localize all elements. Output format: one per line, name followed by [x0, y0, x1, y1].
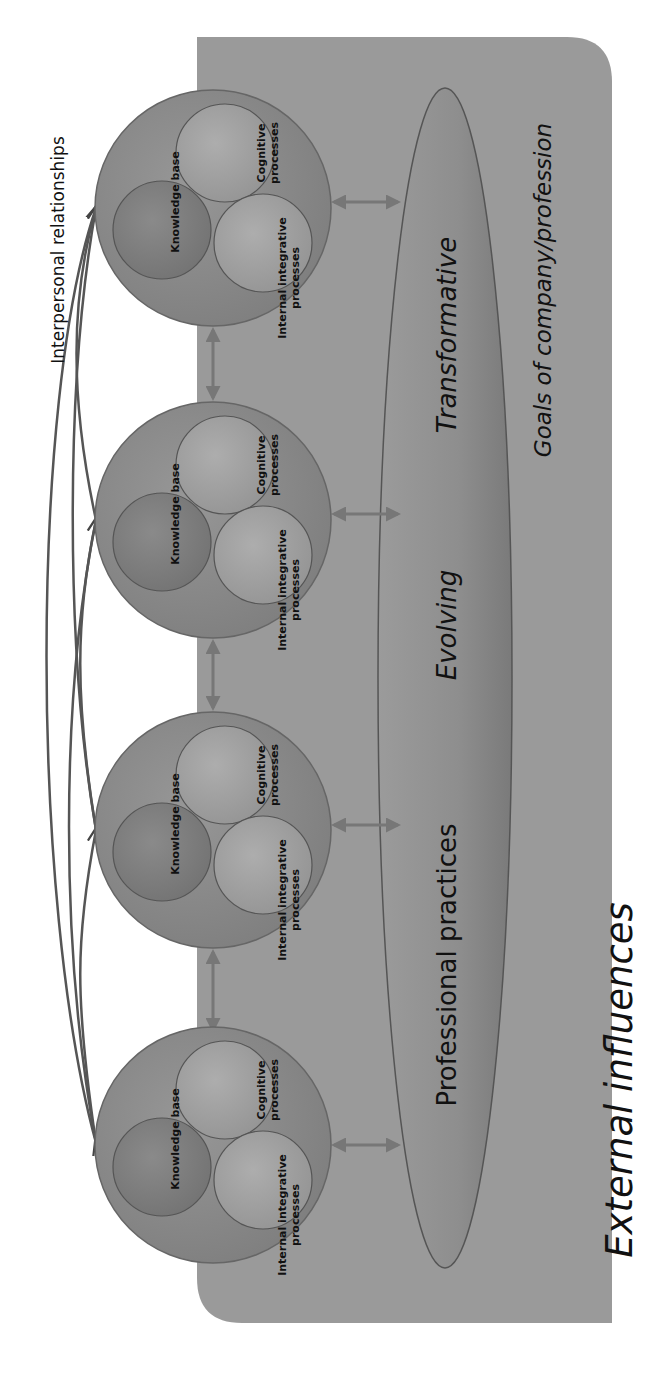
knowledge-label: Knowledge base: [169, 151, 182, 253]
cognitive-label-1: Cognitive: [255, 1061, 268, 1120]
cognitive-label-1: Cognitive: [255, 124, 268, 183]
integrative-label-2: processes: [289, 869, 302, 931]
individual-3: Knowledge base Cognitive processes Inter…: [95, 712, 331, 961]
integrative-label-1: Internal integrative: [276, 1154, 289, 1276]
integrative-label-2: processes: [289, 247, 302, 309]
individual-1: Knowledge base Cognitive processes Inter…: [95, 90, 331, 339]
cognitive-label-2: processes: [268, 434, 281, 496]
knowledge-label: Knowledge base: [169, 463, 182, 565]
cognitive-label-1: Cognitive: [255, 436, 268, 495]
diagram-canvas: Knowledge base Cognitive processes Inter…: [0, 0, 663, 1381]
cognitive-label-2: processes: [268, 1059, 281, 1121]
integrative-label-2: processes: [289, 1184, 302, 1246]
individual-4: Knowledge base Cognitive processes Inter…: [95, 1027, 331, 1276]
knowledge-circle: [113, 1118, 211, 1216]
integrative-label-2: processes: [289, 559, 302, 621]
cognitive-label-2: processes: [268, 744, 281, 806]
cognitive-label-1: Cognitive: [255, 746, 268, 805]
interpersonal-label: Interpersonal relationships: [48, 136, 68, 364]
integrative-label-1: Internal integrative: [276, 217, 289, 339]
cognitive-label-2: processes: [268, 122, 281, 184]
professional-practices-label: Professional practices: [432, 823, 462, 1106]
knowledge-circle: [113, 493, 211, 591]
evolving-label: Evolving: [432, 570, 462, 681]
individual-2: Knowledge base Cognitive processes Inter…: [95, 402, 331, 651]
knowledge-circle: [113, 181, 211, 279]
integrative-label-1: Internal integrative: [276, 529, 289, 651]
goals-label: Goals of company/profession: [530, 123, 556, 457]
external-influences-label: External influences: [598, 902, 641, 1258]
transformative-label: Transformative: [432, 237, 462, 433]
knowledge-circle: [113, 803, 211, 901]
knowledge-label: Knowledge base: [169, 773, 182, 875]
knowledge-label: Knowledge base: [169, 1088, 182, 1190]
integrative-label-1: Internal integrative: [276, 839, 289, 961]
